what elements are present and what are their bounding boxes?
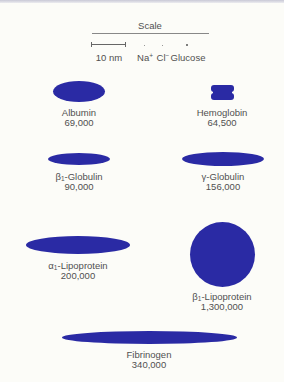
gamma-globulin-mw: 156,000 xyxy=(183,182,263,192)
beta1-lipoprotein-shape xyxy=(190,222,255,287)
scale-bar-10nm xyxy=(91,44,126,45)
scale-title: Scale xyxy=(120,21,180,31)
sodium-ion-dot xyxy=(144,45,145,46)
hemoglobin-shape xyxy=(211,85,234,100)
beta1-globulin-mw: 90,000 xyxy=(39,182,119,192)
albumin-mw: 69,000 xyxy=(39,118,119,128)
top-border xyxy=(0,0,284,3)
fibrinogen-shape xyxy=(62,331,237,344)
beta1-globulin-shape xyxy=(48,153,110,165)
hemoglobin-mw: 64,500 xyxy=(182,118,262,128)
alpha1-lipoprotein-mw: 200,000 xyxy=(33,271,123,281)
gamma-globulin-shape xyxy=(182,152,264,166)
chloride-ion-dot xyxy=(162,45,163,46)
alpha1-lipoprotein-shape xyxy=(26,236,130,254)
glucose-dot xyxy=(186,44,188,46)
beta1-lipoprotein-mw: 1,300,000 xyxy=(177,302,267,312)
glucose-label: Glucose xyxy=(168,53,208,63)
scale-bar-label: 10 nm xyxy=(86,53,132,63)
fibrinogen-mw: 340,000 xyxy=(109,360,189,370)
scale-divider xyxy=(92,33,209,34)
albumin-shape xyxy=(53,81,105,102)
